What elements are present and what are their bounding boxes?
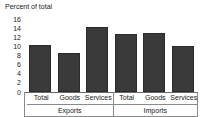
x-axis-tick-label: Total: [113, 92, 142, 104]
bar: [86, 27, 108, 92]
category-row: TotalGoodsServices: [113, 92, 199, 105]
x-axis-tick-label: Goods: [56, 92, 85, 104]
bar: [115, 34, 137, 92]
label-group-imports: TotalGoodsServicesImports: [113, 92, 199, 116]
x-axis-tick-label: Services: [170, 92, 199, 104]
chart-title: Percent of total: [5, 2, 52, 11]
y-axis-tick-label: 0: [17, 89, 21, 96]
y-axis-tick-label: 4: [17, 70, 21, 77]
bar: [143, 33, 165, 92]
y-axis-tick-label: 12: [13, 34, 21, 41]
x-axis-tick-label: Goods: [141, 92, 170, 104]
category-row: TotalGoodsServices: [27, 92, 113, 105]
y-axis-tick-label: 6: [17, 61, 21, 68]
label-group-exports: TotalGoodsServicesExports: [27, 92, 114, 116]
bar: [58, 53, 80, 92]
y-axis-tick-label: 2: [17, 79, 21, 86]
group-label: Exports: [27, 105, 113, 117]
y-axis: 1614121086420: [0, 16, 24, 96]
x-axis-tick-label: Services: [84, 92, 113, 104]
plot-area: [26, 16, 198, 92]
bar: [29, 45, 51, 92]
x-axis-tick-label: Total: [27, 92, 56, 104]
y-axis-tick-label: 16: [13, 16, 21, 23]
y-axis-tick-label: 8: [17, 52, 21, 59]
bar-chart: Percent of total 1614121086420 TotalGood…: [0, 0, 201, 117]
group-label: Imports: [113, 105, 199, 117]
y-axis-tick-label: 14: [13, 25, 21, 32]
y-axis-tick-label: 10: [13, 43, 21, 50]
bar: [172, 46, 194, 92]
category-label-table: TotalGoodsServicesExportsTotalGoodsServi…: [24, 92, 198, 117]
